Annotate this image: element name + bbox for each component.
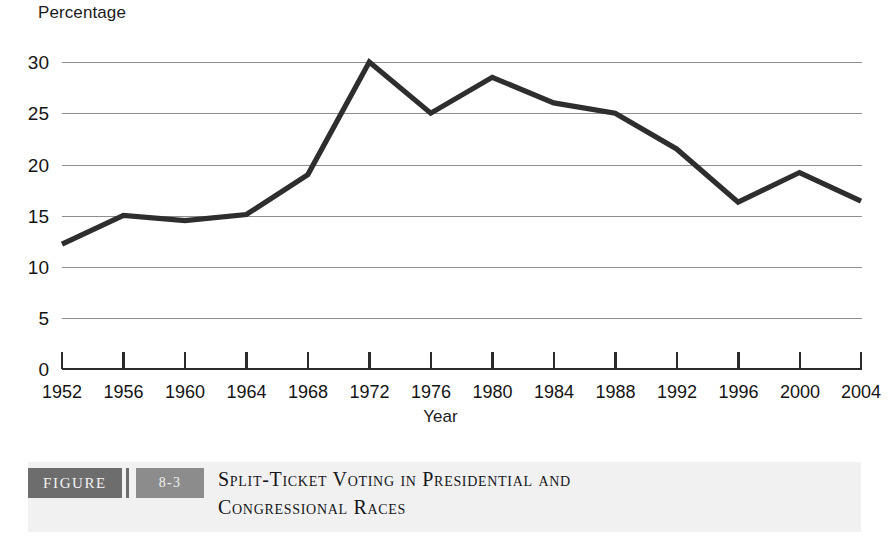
- axes: [62, 352, 862, 369]
- figure-caption-inner: FIGURE 8-3 Split-Ticket Voting in Presid…: [28, 462, 861, 532]
- y-tick-label-30: 30: [28, 52, 49, 73]
- figure-root: Percentage 30 25 20 15 10 5 0: [0, 0, 889, 542]
- figure-caption-text: Split-Ticket Voting in Presidential and …: [218, 465, 838, 521]
- x-tick-label-1980: 1980: [472, 382, 512, 400]
- x-tick-label-1976: 1976: [411, 382, 451, 400]
- x-tick-label-1996: 1996: [718, 382, 758, 400]
- gridlines: [62, 62, 862, 318]
- x-tick-label-2000: 2000: [780, 382, 820, 400]
- y-tick-label-0: 0: [38, 359, 49, 380]
- y-tick-label-5: 5: [38, 308, 49, 329]
- x-tick-label-1968: 1968: [288, 382, 328, 400]
- chart-container: Percentage 30 25 20 15 10 5 0: [0, 0, 889, 445]
- caption-line-2: Congressional Races: [218, 493, 838, 521]
- x-tick-label-1988: 1988: [595, 382, 635, 400]
- x-tick-label-1956: 1956: [103, 382, 143, 400]
- x-tick-label-1964: 1964: [226, 382, 266, 400]
- x-tick-label-1972: 1972: [349, 382, 389, 400]
- x-tick-label-1992: 1992: [657, 382, 697, 400]
- data-series-line: [62, 62, 861, 244]
- y-tick-label-20: 20: [28, 155, 49, 176]
- x-axis-title-wrapper: Year: [0, 407, 889, 427]
- x-axis-tick-marks: [124, 352, 862, 369]
- x-axis-title: Year: [423, 407, 457, 427]
- x-tick-label-1960: 1960: [165, 382, 205, 400]
- figure-number-box: 8-3: [136, 468, 204, 498]
- line-chart-plot: 30 25 20 15 10 5 0: [0, 0, 889, 400]
- y-axis-tick-labels: 30 25 20 15 10 5 0: [28, 52, 49, 380]
- x-tick-label-2004: 2004: [841, 382, 881, 400]
- y-tick-label-10: 10: [28, 257, 49, 278]
- caption-line-1: Split-Ticket Voting in Presidential and: [218, 465, 838, 493]
- x-axis-tick-labels: 1952 1956 1960 1964 1968 1972 1976 1980 …: [42, 382, 881, 400]
- figure-caption-band: FIGURE 8-3 Split-Ticket Voting in Presid…: [28, 462, 861, 532]
- x-tick-label-1952: 1952: [42, 382, 82, 400]
- y-tick-label-25: 25: [28, 103, 49, 124]
- y-tick-label-15: 15: [28, 206, 49, 227]
- figure-label-divider: [126, 468, 129, 498]
- x-tick-label-1984: 1984: [534, 382, 574, 400]
- figure-label-box: FIGURE: [28, 468, 122, 498]
